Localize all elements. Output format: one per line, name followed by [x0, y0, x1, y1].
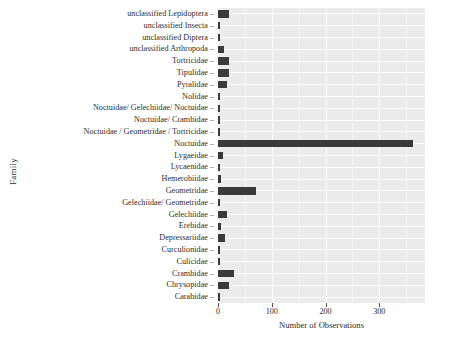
category-label: Curculionidae [162, 245, 208, 254]
tick-dash: – [210, 8, 214, 20]
category-label: Noctuidae/ Gelechiidae/ Noctuidae [93, 103, 208, 112]
y-axis-tick-label: Geometridae– [166, 185, 214, 197]
gridline-vertical-minor [245, 8, 246, 303]
bar [218, 152, 223, 159]
category-label: Depressariidae [159, 233, 208, 242]
gridline-vertical-major [379, 8, 380, 303]
tick-dash: – [210, 102, 214, 114]
bar [218, 81, 227, 88]
y-axis-tick-label: Noctuidae/ Gelechiidae/ Noctuidae– [93, 102, 214, 114]
category-label: Noctuidae [174, 139, 208, 148]
gridline-vertical-major [326, 8, 327, 303]
gridline-horizontal [218, 37, 425, 38]
tick-dash: – [210, 55, 214, 67]
gridline-horizontal [218, 155, 425, 156]
category-label: Gelechiidae [169, 210, 208, 219]
y-axis-tick-label: Crambidae– [172, 268, 214, 280]
gridline-horizontal [218, 179, 425, 180]
bar-chart: Family unclassified Lepidoptera–unclassi… [0, 0, 450, 343]
y-axis-tick-label: Gelechiidae/ Geometridae– [122, 197, 214, 209]
tick-dash: – [210, 91, 214, 103]
bar [218, 211, 227, 218]
x-axis-tick-label: 100 [266, 307, 278, 316]
x-axis-tick-labels: 0100200300 [218, 307, 425, 319]
bar [218, 175, 221, 182]
y-axis-tick-label: unclassified Insecta– [144, 20, 214, 32]
y-axis-tick-label: Tortricidae– [172, 55, 214, 67]
category-label: unclassified Arthropoda [129, 44, 207, 53]
gridline-horizontal [218, 238, 425, 239]
gridline-horizontal [218, 72, 425, 73]
gridline-horizontal [218, 249, 425, 250]
x-axis-tick-label: 300 [373, 307, 385, 316]
category-label: Erebidae [179, 221, 208, 230]
tick-dash: – [210, 256, 214, 268]
tick-dash: – [210, 197, 214, 209]
tick-dash: – [210, 232, 214, 244]
y-axis-tick-label: unclassified Lepidoptera– [127, 8, 214, 20]
bar [218, 10, 229, 17]
bar [218, 46, 224, 53]
bar [218, 34, 220, 41]
category-label: Gelechiidae/ Geometridae [122, 198, 208, 207]
gridline-vertical-minor [299, 8, 300, 303]
gridline-horizontal [218, 13, 425, 14]
gridline-horizontal [218, 49, 425, 50]
gridline-horizontal [218, 84, 425, 85]
category-label: Noctuidae / Geometridae / Tortricidae [84, 127, 208, 136]
x-axis-title: Number of Observations [218, 320, 425, 330]
bar [218, 270, 234, 277]
gridline-horizontal [218, 131, 425, 132]
gridline-horizontal [218, 108, 425, 109]
y-axis-tick-label: Noctuidae / Geometridae / Tortricidae– [84, 126, 214, 138]
bar [218, 69, 229, 76]
bar [218, 282, 229, 289]
gridline-horizontal [218, 25, 425, 26]
bar [218, 140, 413, 147]
gridline-horizontal [218, 61, 425, 62]
tick-dash: – [210, 79, 214, 91]
y-axis-tick-label: Nolidae– [182, 91, 214, 103]
bar [218, 164, 220, 171]
y-axis-tick-label: Noctuidae– [174, 138, 214, 150]
y-axis-tick-label: Tipulidae– [177, 67, 214, 79]
tick-dash: – [210, 150, 214, 162]
bar [218, 246, 220, 253]
tick-dash: – [210, 279, 214, 291]
category-label: Lycaenidae [171, 162, 208, 171]
category-label: Lygaeidae [174, 151, 208, 160]
y-axis-tick-label: unclassified Arthropoda– [129, 43, 214, 55]
y-axis-title: Family [0, 0, 26, 343]
tick-dash: – [210, 32, 214, 44]
y-axis-tick-label: Curculionidae– [162, 244, 214, 256]
bar [218, 93, 220, 100]
y-axis-tick-labels: unclassified Lepidoptera–unclassified In… [36, 8, 214, 303]
gridline-horizontal [218, 273, 425, 274]
gridline-vertical-minor [352, 8, 353, 303]
category-label: Pyralidae [177, 80, 208, 89]
y-axis-tick-label: Gelechiidae– [169, 209, 214, 221]
gridline-vertical-minor [406, 8, 407, 303]
tick-dash: – [210, 220, 214, 232]
gridline-horizontal [218, 285, 425, 286]
category-label: Crambidae [172, 269, 208, 278]
category-label: Tortricidae [172, 56, 208, 65]
category-label: Noctuidae/ Crambidae [134, 115, 208, 124]
bar [218, 105, 220, 112]
y-axis-tick-label: Hemerobiidae– [162, 173, 214, 185]
gridline-vertical-major [272, 8, 273, 303]
bar [218, 22, 220, 29]
category-label: Hemerobiidae [162, 174, 208, 183]
category-label: unclassified Diptera [142, 33, 208, 42]
y-axis-tick-label: Noctuidae/ Crambidae– [134, 114, 214, 126]
bar [218, 57, 229, 64]
y-axis-tick-label: Depressariidae– [159, 232, 214, 244]
tick-dash: – [210, 173, 214, 185]
gridline-horizontal [218, 297, 425, 298]
category-label: Chrysopidae [167, 280, 208, 289]
tick-dash: – [210, 268, 214, 280]
y-axis-tick-label: Lycaenidae– [171, 161, 214, 173]
bar [218, 128, 220, 135]
y-axis-tick-label: Culicidae– [177, 256, 214, 268]
category-label: unclassified Insecta [144, 21, 208, 30]
